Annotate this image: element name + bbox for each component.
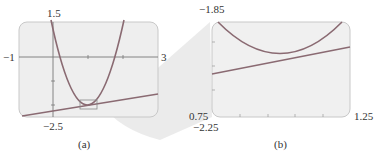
panel-b-caption: (b) [274,139,287,150]
panel-b [212,22,350,117]
figure-canvas [0,0,375,160]
panel-a-caption: (a) [78,139,90,150]
panel-a-xmax-label: 3 [161,52,167,63]
panel-b-ymin-label: −2.25 [193,122,218,133]
panel-a-xmin-label: −1 [3,52,15,63]
panel-a-ymin-label: −2.5 [43,121,63,132]
panel-a-ymax-label: 1.5 [47,8,61,19]
panel-a-screen [19,22,158,117]
panel-b-xmax-label: 1.25 [354,111,373,122]
panel-b-ymax-label: −1.85 [199,4,224,15]
panel-a [19,20,158,117]
